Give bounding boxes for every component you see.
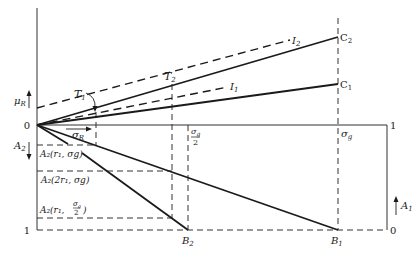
mu-r-arrow <box>27 90 32 108</box>
origin-label: 0 <box>24 120 30 131</box>
right-bottom-zero-label: 0 <box>390 225 396 236</box>
t1-label: T1 <box>74 88 86 102</box>
b1-label: B1 <box>330 235 343 248</box>
a1-axis-label: A1 <box>400 200 413 213</box>
sigma-r-label: σR <box>72 129 85 142</box>
t2-label: T2 <box>164 70 176 84</box>
svg-text:A₂(r₁,: A₂(r₁, <box>39 205 65 215</box>
sigma-g-label: σg <box>341 128 353 141</box>
i2-label: I2 <box>291 35 301 48</box>
line-o-c1 <box>37 84 338 125</box>
svg-text:2: 2 <box>193 138 198 147</box>
a2-axis-label: A2 <box>13 140 26 153</box>
mu-r-label: μR <box>14 95 27 108</box>
diagram-canvas: 0 μR A2 σR T1 T2 I1 I2 C2 C1 σg σg 2 B2 … <box>0 0 416 256</box>
a2-r1-sg2-label: A₂(r₁, σg 2 ) <box>39 200 87 217</box>
c1-label: C1 <box>340 79 352 92</box>
sigma-r-arrow <box>66 127 92 132</box>
svg-text:2: 2 <box>74 209 78 217</box>
t1-pointer-arrow <box>86 93 95 108</box>
c2-label: C2 <box>340 32 352 45</box>
left-bottom-one-label: 1 <box>24 225 30 236</box>
a2-2r1-sg-label: A₂(2r₁, σg) <box>40 175 90 185</box>
a1-arrow <box>394 196 399 215</box>
line-o-c2 <box>37 37 338 125</box>
b2-label: B2 <box>181 235 194 248</box>
svg-text:): ) <box>82 205 87 215</box>
svg-text:σg: σg <box>191 127 200 138</box>
curve-i1 <box>37 87 228 125</box>
a2-arrow <box>27 142 32 160</box>
a2-r1-sg-label: A₂(r₁, σg) <box>39 149 83 159</box>
right-top-one-label: 1 <box>390 120 396 131</box>
sigma-g-half-label: σg 2 <box>191 127 200 147</box>
i1-label: I1 <box>229 81 238 94</box>
